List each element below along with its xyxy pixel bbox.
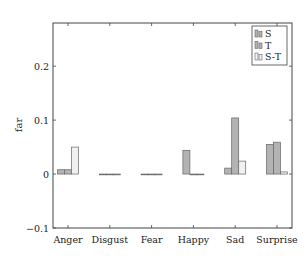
legend-label: T bbox=[265, 40, 272, 51]
legend-swatch bbox=[259, 43, 262, 49]
legend-swatch bbox=[259, 55, 262, 61]
y-tick-label: 0 bbox=[43, 169, 49, 180]
bars-group bbox=[58, 118, 288, 175]
y-axis-ticks: −0.100.10.2 bbox=[26, 61, 292, 234]
bar-s-t-anger bbox=[72, 147, 79, 174]
bar-t-sad bbox=[232, 118, 239, 174]
bar-chart: −0.100.10.2 AngerDisgustFearHappySadSurp… bbox=[0, 0, 306, 260]
bar-s-t-surprise bbox=[281, 172, 288, 174]
bar-s-happy bbox=[183, 150, 190, 174]
bar-s-surprise bbox=[267, 144, 274, 174]
bar-s-sad bbox=[225, 168, 232, 174]
y-axis-label: far bbox=[13, 118, 24, 133]
legend-label: S bbox=[265, 28, 272, 39]
x-tick-label: Fear bbox=[141, 234, 163, 245]
bar-s-anger bbox=[58, 170, 65, 174]
legend-swatch bbox=[255, 30, 258, 37]
y-tick-label: −0.1 bbox=[26, 223, 49, 234]
x-tick-label: Happy bbox=[178, 234, 210, 245]
x-tick-label: Disgust bbox=[92, 234, 129, 245]
bar-s-t-fear bbox=[155, 174, 162, 175]
bar-s-t-happy bbox=[197, 174, 204, 175]
x-tick-label: Sad bbox=[226, 234, 244, 245]
x-tick-label: Anger bbox=[52, 234, 83, 245]
legend-label: S-T bbox=[265, 51, 282, 62]
legend-swatch bbox=[255, 53, 258, 60]
legend: STS-T bbox=[252, 26, 287, 65]
bar-t-fear bbox=[148, 174, 155, 175]
y-tick-label: 0.1 bbox=[34, 115, 49, 126]
legend-swatch bbox=[255, 42, 258, 49]
bar-s-t-sad bbox=[239, 161, 246, 174]
bar-s-t-disgust bbox=[113, 174, 120, 175]
legend-swatch bbox=[259, 32, 262, 38]
bar-t-happy bbox=[190, 174, 197, 175]
bar-s-fear bbox=[141, 174, 148, 175]
bar-s-disgust bbox=[99, 174, 106, 175]
x-tick-label: Surprise bbox=[256, 234, 298, 245]
bar-t-disgust bbox=[106, 174, 113, 175]
y-tick-label: 0.2 bbox=[34, 61, 49, 72]
bar-t-anger bbox=[65, 170, 72, 174]
bar-t-surprise bbox=[274, 142, 281, 174]
